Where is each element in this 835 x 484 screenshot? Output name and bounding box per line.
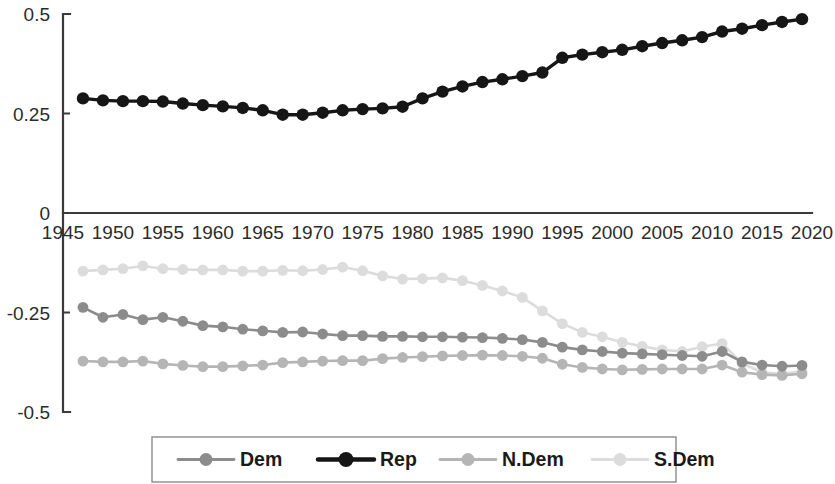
- y-tick-label: 0.5: [24, 4, 50, 25]
- x-tick-label: 2010: [691, 222, 733, 243]
- data-point-marker: [557, 359, 568, 370]
- data-point-marker: [677, 350, 688, 361]
- data-point-marker: [496, 73, 508, 85]
- data-point-marker: [118, 263, 129, 274]
- data-point-marker: [677, 364, 688, 375]
- legend-swatch-marker: [339, 452, 354, 467]
- data-point-marker: [776, 16, 788, 28]
- legend-swatch-marker: [200, 453, 213, 466]
- data-point-marker: [557, 342, 568, 353]
- legend-swatch-marker: [462, 453, 475, 466]
- data-point-marker: [497, 333, 508, 344]
- data-point-marker: [317, 356, 328, 367]
- y-tick-label: -0.25: [7, 303, 50, 324]
- data-point-marker: [476, 76, 488, 88]
- data-point-marker: [516, 70, 528, 82]
- data-point-marker: [577, 327, 588, 338]
- data-point-marker: [717, 346, 728, 357]
- data-point-marker: [497, 286, 508, 297]
- data-point-marker: [336, 104, 348, 116]
- data-point-marker: [537, 337, 548, 348]
- data-point-marker: [517, 351, 528, 362]
- data-point-marker: [118, 309, 129, 320]
- data-point-marker: [477, 350, 488, 361]
- data-point-marker: [177, 97, 189, 109]
- data-point-marker: [597, 364, 608, 375]
- data-point-marker: [257, 104, 269, 116]
- data-point-marker: [217, 100, 229, 112]
- data-point-marker: [797, 360, 808, 371]
- data-point-marker: [78, 356, 89, 367]
- data-point-marker: [437, 350, 448, 361]
- data-point-marker: [197, 99, 209, 111]
- data-point-marker: [277, 108, 289, 120]
- series-rep: [77, 13, 808, 121]
- data-point-marker: [337, 330, 348, 341]
- data-point-marker: [477, 332, 488, 343]
- data-point-marker: [197, 361, 208, 372]
- data-point-marker: [497, 350, 508, 361]
- data-point-marker: [337, 355, 348, 366]
- legend-item-label: Rep: [380, 448, 417, 470]
- data-point-marker: [636, 40, 648, 52]
- data-point-marker: [277, 265, 288, 276]
- data-point-marker: [477, 280, 488, 291]
- data-point-marker: [457, 332, 468, 343]
- data-point-marker: [597, 331, 608, 342]
- data-point-marker: [177, 360, 188, 371]
- data-point-marker: [697, 351, 708, 362]
- data-point-marker: [237, 360, 248, 371]
- data-point-marker: [557, 318, 568, 329]
- x-tick-label: 2020: [791, 222, 833, 243]
- x-tick-label: 1965: [242, 222, 284, 243]
- data-point-marker: [517, 334, 528, 345]
- data-point-marker: [777, 361, 788, 372]
- data-point-marker: [397, 352, 408, 363]
- data-point-marker: [217, 265, 228, 276]
- data-point-marker: [437, 331, 448, 342]
- data-point-marker: [637, 348, 648, 359]
- legend-item-label: Dem: [240, 448, 282, 470]
- data-point-marker: [217, 361, 228, 372]
- legend-swatch-marker: [614, 453, 627, 466]
- data-point-marker: [457, 350, 468, 361]
- data-point-marker: [617, 348, 628, 359]
- data-point-marker: [577, 345, 588, 356]
- data-point-marker: [257, 266, 268, 277]
- data-point-marker: [78, 266, 89, 277]
- data-point-marker: [656, 37, 668, 49]
- data-point-marker: [796, 13, 808, 25]
- x-tick-label: 2005: [641, 222, 683, 243]
- data-point-marker: [98, 265, 109, 276]
- data-point-marker: [657, 349, 668, 360]
- data-point-marker: [177, 264, 188, 275]
- data-point-marker: [337, 262, 348, 273]
- data-point-marker: [717, 360, 728, 371]
- series-layer: [77, 13, 808, 381]
- data-point-marker: [257, 325, 268, 336]
- data-point-marker: [377, 353, 388, 364]
- data-point-marker: [376, 102, 388, 114]
- data-point-marker: [137, 261, 148, 272]
- data-point-marker: [157, 95, 169, 107]
- data-point-marker: [616, 44, 628, 56]
- data-point-marker: [117, 95, 129, 107]
- data-point-marker: [517, 292, 528, 303]
- data-point-marker: [417, 331, 428, 342]
- data-point-marker: [536, 66, 548, 78]
- data-point-marker: [197, 320, 208, 331]
- data-point-marker: [716, 25, 728, 37]
- y-tick-label: 0.25: [13, 104, 50, 125]
- data-point-marker: [756, 19, 768, 31]
- data-point-marker: [417, 351, 428, 362]
- data-point-marker: [177, 316, 188, 327]
- data-point-marker: [596, 46, 608, 58]
- chart-legend: DemRepN.DemS.Dem: [152, 437, 715, 482]
- data-point-marker: [617, 337, 628, 348]
- data-point-marker: [357, 355, 368, 366]
- data-point-marker: [98, 312, 109, 323]
- series-line: [83, 19, 802, 115]
- data-point-marker: [617, 364, 628, 375]
- data-point-marker: [737, 367, 748, 378]
- data-point-marker: [417, 273, 428, 284]
